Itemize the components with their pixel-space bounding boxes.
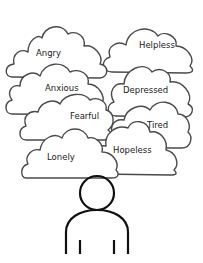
person-outline-icon [66,176,128,254]
label-fearful: Fearful [70,111,99,121]
person-head [80,176,114,210]
label-depressed: Depressed [123,85,168,95]
label-anxious: Anxious [45,83,79,93]
emotion-diagram: Helpless Angry Depressed Anxious Tired F… [0,0,203,263]
label-helpless: Helpless [139,40,175,50]
label-lonely: Lonely [47,152,75,162]
cloud-helpless: Helpless [103,29,192,73]
label-hopeless: Hopeless [113,145,152,155]
person-shoulders [66,210,128,254]
label-angry: Angry [36,48,61,58]
